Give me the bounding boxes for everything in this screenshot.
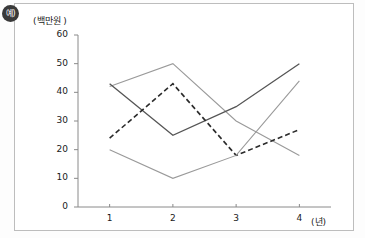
series-line-series-c [110, 84, 300, 156]
series-line-series-b [110, 64, 300, 136]
series-line-series-d [110, 81, 300, 178]
figure-root: 예) (백만원 ) (년) 0102030405060 1234 [0, 0, 365, 238]
line-chart-plot [0, 0, 365, 238]
example-badge: 예) [2, 5, 19, 22]
data-series-group [110, 64, 300, 179]
